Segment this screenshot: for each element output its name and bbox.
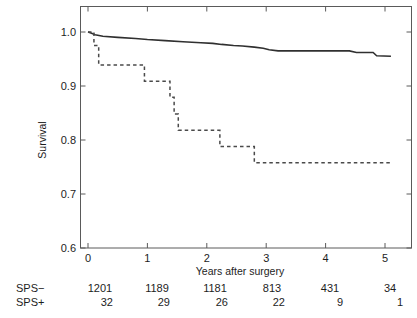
x-tick-marks xyxy=(88,7,385,249)
risk-value: 1189 xyxy=(145,282,169,294)
y-tick-marks xyxy=(81,32,412,248)
survival-curve-sps-negative xyxy=(88,32,391,56)
risk-row-values-0: 1201 1189 1181 813 431 34 xyxy=(88,282,396,294)
y-tick-label-0: 0.6 xyxy=(61,242,76,254)
risk-value: 9 xyxy=(337,296,343,308)
plot-frame xyxy=(81,7,412,249)
x-tick-label-2: 2 xyxy=(204,252,210,264)
risk-value: 813 xyxy=(263,282,281,294)
x-tick-labels: 0 1 2 3 4 5 xyxy=(85,252,388,264)
y-tick-label-2: 0.8 xyxy=(61,134,76,146)
survival-figure: 0.6 0.7 0.8 0.9 1.0 Survival 0 1 2 3 4 5… xyxy=(0,0,417,318)
risk-value: 22 xyxy=(273,296,285,308)
risk-value: 1 xyxy=(397,296,403,308)
risk-value: 431 xyxy=(321,282,339,294)
x-tick-label-1: 1 xyxy=(144,252,150,264)
risk-value: 1201 xyxy=(88,282,112,294)
risk-table: SPS− SPS+ 1201 1189 1181 813 431 34 32 2… xyxy=(16,282,403,308)
risk-value: 1181 xyxy=(203,282,227,294)
risk-value: 26 xyxy=(216,296,228,308)
y-tick-label-3: 0.9 xyxy=(61,80,76,92)
risk-value: 32 xyxy=(101,296,113,308)
risk-row-label-0: SPS− xyxy=(16,282,44,294)
x-tick-label-5: 5 xyxy=(382,252,388,264)
x-tick-label-4: 4 xyxy=(323,252,329,264)
survival-curves xyxy=(88,32,391,163)
x-axis-title: Years after surgery xyxy=(196,265,285,277)
x-tick-label-0: 0 xyxy=(85,252,91,264)
y-axis-title: Survival xyxy=(36,121,48,158)
risk-value: 34 xyxy=(384,282,396,294)
risk-value: 29 xyxy=(158,296,170,308)
risk-row-label-1: SPS+ xyxy=(16,296,44,308)
x-tick-label-3: 3 xyxy=(263,252,269,264)
y-tick-label-1: 0.7 xyxy=(61,188,76,200)
y-tick-labels: 0.6 0.7 0.8 0.9 1.0 xyxy=(61,26,76,254)
y-tick-label-4: 1.0 xyxy=(61,26,76,38)
km-plot-svg: 0.6 0.7 0.8 0.9 1.0 Survival 0 1 2 3 4 5… xyxy=(0,0,417,318)
risk-row-values-1: 32 29 26 22 9 1 xyxy=(101,296,403,308)
